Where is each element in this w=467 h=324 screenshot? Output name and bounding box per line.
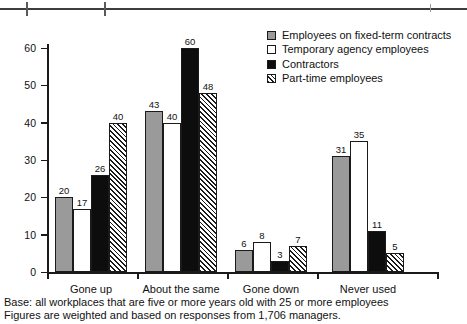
- bar-value-label: 11: [366, 220, 388, 230]
- bar[interactable]: [91, 175, 109, 272]
- bar[interactable]: [386, 253, 404, 272]
- legend-label: Temporary agency employees: [282, 44, 429, 55]
- legend-item-1[interactable]: Temporary agency employees: [267, 43, 451, 58]
- bar-value-label: 20: [53, 186, 75, 196]
- bar[interactable]: [73, 209, 91, 272]
- y-axis-tick: [41, 197, 48, 199]
- legend-swatch-gray-icon: [267, 31, 276, 40]
- category-tick: [47, 272, 49, 279]
- category-tick: [227, 272, 229, 279]
- y-axis-tick: [41, 122, 48, 124]
- scan-tick-artifact: [26, 2, 28, 16]
- y-axis-tick-label: 20: [10, 192, 36, 203]
- category-label: About the same: [142, 283, 219, 295]
- category-label: Gone down: [243, 283, 299, 295]
- bar[interactable]: [332, 156, 350, 272]
- bar[interactable]: [199, 93, 217, 272]
- legend-swatch-black-icon: [267, 60, 276, 69]
- category-tick: [437, 272, 439, 279]
- legend-label: Employees on fixed-term contracts: [282, 30, 451, 41]
- bar-value-label: 60: [179, 37, 201, 47]
- y-axis-tick: [41, 234, 48, 236]
- scan-tick-artifact: [104, 2, 106, 16]
- legend: Employees on fixed-term contracts Tempor…: [267, 28, 451, 86]
- bar-value-label: 31: [330, 145, 352, 155]
- category-label: Gone up: [70, 283, 112, 295]
- legend-item-3[interactable]: Part-time employees: [267, 72, 451, 87]
- bar[interactable]: [55, 197, 73, 272]
- legend-label: Part-time employees: [282, 73, 383, 84]
- bar[interactable]: [350, 141, 368, 272]
- y-axis-tick-label: 30: [10, 155, 36, 166]
- legend-label: Contractors: [282, 59, 339, 70]
- bar-value-label: 5: [384, 242, 406, 252]
- y-axis-tick-label: 60: [10, 43, 36, 54]
- scan-tick-artifact: [430, 4, 431, 12]
- bar-value-label: 7: [287, 235, 309, 245]
- bar[interactable]: [163, 123, 181, 272]
- bar-value-label: 35: [348, 130, 370, 140]
- footnote-base: Base: all workplaces that are five or mo…: [4, 296, 389, 308]
- footnote-figures: Figures are weighted and based on respon…: [4, 309, 341, 321]
- bar-value-label: 40: [161, 112, 183, 122]
- bar-value-label: 48: [197, 82, 219, 92]
- category-label: Never used: [340, 283, 396, 295]
- y-axis-tick-label: 10: [10, 230, 36, 241]
- y-axis-tick-label: 40: [10, 118, 36, 129]
- y-axis-tick-label: 50: [10, 80, 36, 91]
- bar-value-label: 43: [143, 100, 165, 110]
- x-axis-line: [47, 272, 437, 274]
- bar[interactable]: [271, 261, 289, 272]
- bar[interactable]: [145, 111, 163, 272]
- bar-value-label: 26: [89, 164, 111, 174]
- top-divider: [0, 8, 467, 10]
- bar[interactable]: [289, 246, 307, 272]
- chart-figure: Percent 0102030405060 201726404340604868…: [0, 0, 467, 324]
- legend-item-2[interactable]: Contractors: [267, 57, 451, 72]
- y-axis-tick: [41, 85, 48, 87]
- category-tick: [137, 272, 139, 279]
- bar-value-label: 17: [71, 198, 93, 208]
- legend-item-0[interactable]: Employees on fixed-term contracts: [267, 28, 451, 43]
- bar-value-label: 3: [269, 250, 291, 260]
- category-tick: [317, 272, 319, 279]
- bar[interactable]: [235, 250, 253, 272]
- bar-value-label: 40: [107, 112, 129, 122]
- legend-swatch-hatched-icon: [267, 74, 276, 83]
- legend-swatch-white-icon: [267, 45, 276, 54]
- y-axis-tick: [41, 48, 48, 50]
- y-axis-tick-label: 0: [10, 267, 36, 278]
- bar-value-label: 8: [251, 231, 273, 241]
- bar[interactable]: [109, 123, 127, 272]
- y-axis-tick: [41, 160, 48, 162]
